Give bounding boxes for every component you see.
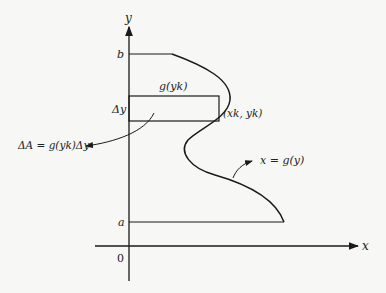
strip-width-label: g(yk) (159, 80, 188, 93)
curve-label: x = g(y) (260, 154, 304, 167)
origin-label: 0 (117, 252, 124, 265)
area-element-label: ΔA = g(yk)Δy (17, 139, 90, 151)
curve-label-pointer-arrow (233, 161, 252, 178)
x-axis-label: x (362, 239, 369, 253)
upper-bound-label: b (117, 48, 124, 61)
lower-bound-label: a (118, 216, 125, 229)
sample-point-label: (xk, yk) (223, 107, 262, 119)
area-element-pointer-arrow (86, 113, 154, 146)
y-axis-label: y (124, 11, 132, 25)
area-between-curve-and-y-axis-diagram: x y 0 b a g(yk) Δy (xk, yk) ΔA = g(yk)Δy… (0, 0, 386, 293)
strip-height-label: Δy (111, 103, 127, 116)
strip-rectangle (129, 96, 219, 121)
diagram-canvas: x y 0 b a g(yk) Δy (xk, yk) ΔA = g(yk)Δy… (0, 0, 386, 293)
curve-x-equals-g-of-y (172, 54, 284, 222)
